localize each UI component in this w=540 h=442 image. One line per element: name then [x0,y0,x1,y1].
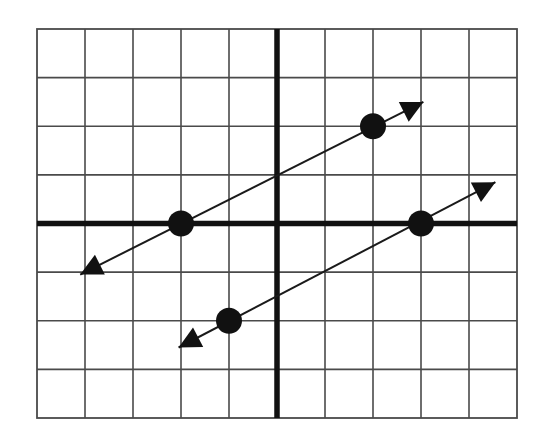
data-point [216,308,242,334]
data-point [168,211,194,237]
axes [37,29,517,418]
data-point [360,113,386,139]
data-point [408,211,434,237]
coordinate-graph [0,0,540,442]
